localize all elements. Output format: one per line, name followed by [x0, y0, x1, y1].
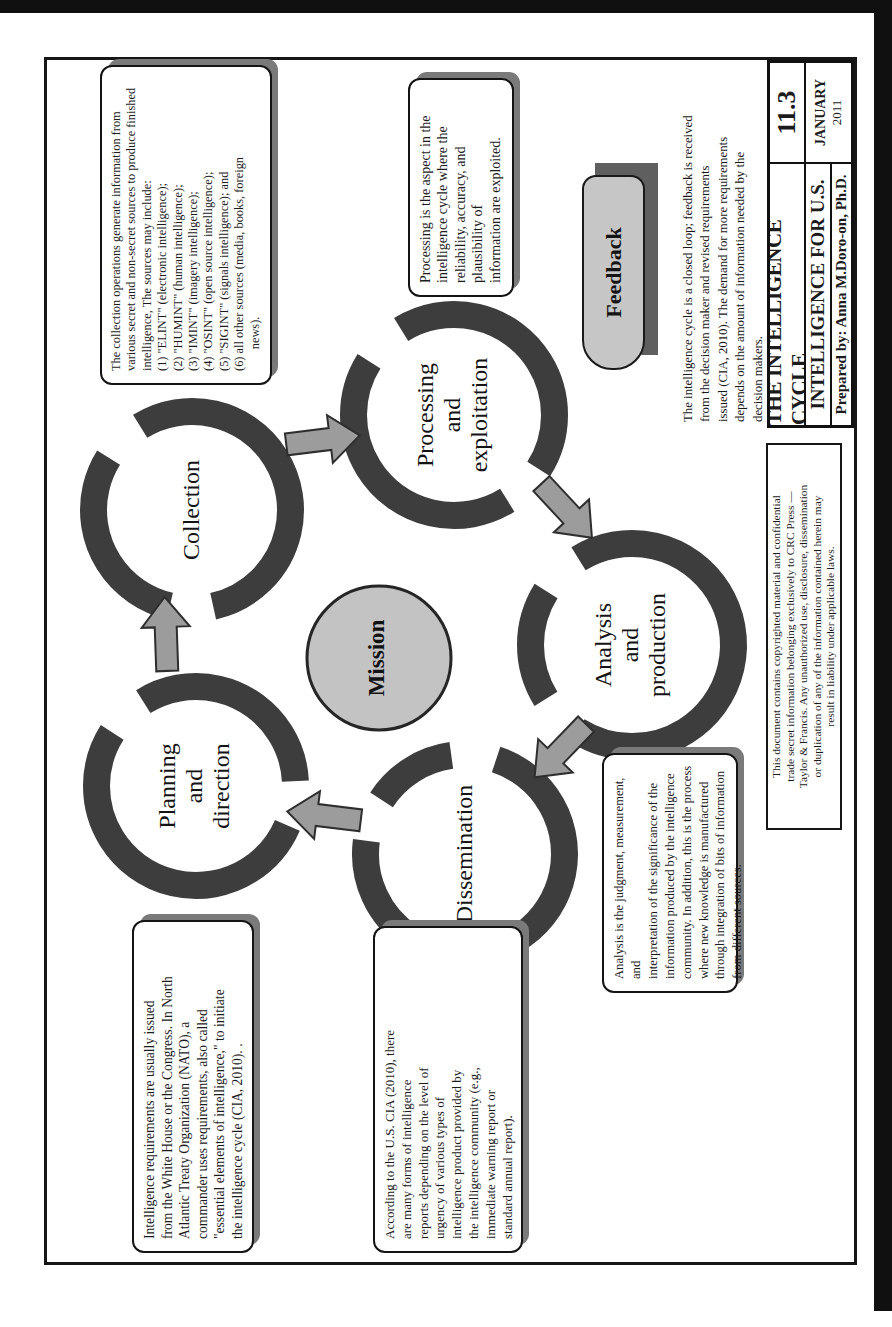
- figure-prepared-by: Prepared by: Anna M.Doro-on, Ph.D.: [831, 163, 852, 426]
- node-label-processing: Processing and exploitation: [412, 305, 493, 525]
- dissemination-note: According to the U.S. CIA (2010), there …: [373, 926, 523, 1253]
- figure-subtitle: INTELLIGENCE FOR U.S.: [805, 163, 831, 426]
- figure-date-year: 2011: [829, 100, 845, 126]
- node-label-collection: Collection: [178, 400, 205, 620]
- figure-number: 11.3: [769, 62, 805, 163]
- copyright-box: This document contains copyrighted mater…: [766, 443, 842, 830]
- figure-date-month: JANUARY: [812, 79, 830, 146]
- landscape-stage: Planning and direction Collection Proces…: [0, 0, 892, 1327]
- scanned-page: Planning and direction Collection Proces…: [0, 0, 892, 1327]
- mission-label: Mission: [364, 558, 390, 758]
- collection-note: The collection operations generate infor…: [100, 65, 272, 385]
- feedback-label: Feedback: [601, 227, 627, 317]
- node-label-analysis: Analysis and production: [590, 535, 671, 755]
- planning-note: Intelligence requirements are usually is…: [132, 920, 254, 1253]
- analysis-note: Analysis is the judgment, measurement, a…: [602, 753, 738, 993]
- figure-date: JANUARY 2011: [805, 62, 852, 163]
- processing-note: Processing is the aspect in the intellig…: [408, 78, 514, 297]
- feedback-shape: Feedback: [582, 175, 645, 370]
- title-block: THE INTELLIGENCE CYCLE 11.3 INTELLIGENCE…: [767, 60, 854, 428]
- figure-title: THE INTELLIGENCE CYCLE: [769, 163, 805, 426]
- feedback-paragraph: The intelligence cycle is a closed loop;…: [680, 60, 768, 422]
- node-label-planning: Planning and direction: [154, 676, 235, 896]
